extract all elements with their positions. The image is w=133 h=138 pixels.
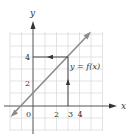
curve-label: y = f(x) [69,62,100,71]
y-axis-arrow-icon [31,21,36,29]
x-tick-3: 3 [68,110,73,119]
left-arrow-icon [47,55,53,59]
x-tick-2: 2 [54,110,59,119]
function-graph: y x 0 2 3 4 2 4 y = f(x) [0,0,133,138]
y-tick-2: 2 [25,79,30,88]
origin-label: 0 [26,110,31,119]
y-tick-4: 4 [25,53,30,62]
curve-line [13,35,88,114]
x-axis-label: x [121,101,126,111]
x-axis-arrow-icon [109,104,117,109]
y-axis-label: y [29,8,36,18]
up-arrow-icon [66,79,70,85]
x-tick-4: 4 [78,110,83,119]
